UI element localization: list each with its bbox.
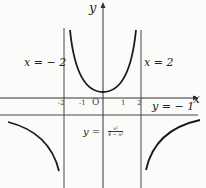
- curve-left-branch: [8, 122, 59, 171]
- graph-figure: y x x = − 2 x = 2 y = − 1 -2 -1 O 1 2 y …: [0, 0, 206, 188]
- function-lhs: y =: [83, 126, 100, 137]
- x-tick-2: 2: [137, 99, 141, 107]
- x-tick-1: 1: [121, 99, 125, 107]
- function-denominator: 4 − x²: [108, 132, 123, 137]
- origin-label: O: [92, 97, 99, 107]
- x-tick-minus-2: -2: [58, 99, 65, 107]
- y-axis-label: y: [89, 0, 96, 15]
- function-fraction: x² 4 − x²: [108, 126, 123, 137]
- asymptote-left-label: x = − 2: [24, 56, 66, 69]
- graph-plot: [0, 0, 206, 188]
- curve-right-branch: [146, 120, 200, 170]
- x-tick-minus-1: -1: [79, 99, 86, 107]
- asymptote-right-label: x = 2: [144, 56, 173, 69]
- y-axis-arrow-icon: [101, 2, 106, 8]
- asymptote-horizontal-label: y = − 1: [152, 100, 194, 113]
